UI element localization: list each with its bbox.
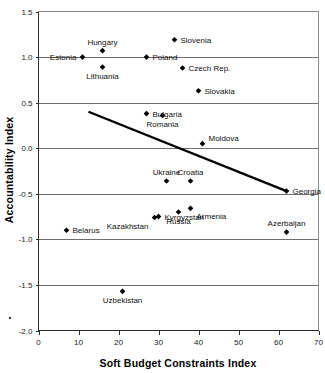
data-marker	[100, 64, 106, 70]
data-marker	[284, 229, 290, 235]
data-marker	[188, 206, 194, 212]
data-marker	[196, 88, 202, 94]
point-label-czech-rep: Czech Rep.	[189, 64, 231, 73]
chart-canvas: -2.0-1.5-1.0-0.50.00.51.01.5 01020304050…	[0, 0, 325, 373]
point-label-belarus: Belarus	[73, 226, 100, 235]
data-marker	[120, 288, 126, 294]
data-marker	[180, 65, 186, 71]
data-marker	[188, 178, 194, 184]
trend-line	[89, 112, 287, 191]
x-tick-label: 60	[274, 338, 283, 347]
y-axis-title: Accountability Index	[3, 117, 15, 224]
point-label-hungary: Hungary	[87, 38, 117, 47]
x-tick-label: 50	[234, 338, 243, 347]
x-tick-label: 30	[154, 338, 163, 347]
x-tick-label: 10	[74, 338, 83, 347]
y-tick-label: 1.5	[21, 8, 33, 17]
x-tick-label: 40	[194, 338, 203, 347]
data-marker	[152, 215, 158, 221]
data-marker	[144, 111, 150, 117]
point-label-uzbekistan: Uzbekistan	[103, 296, 143, 305]
point-label-georgia: Georgia	[293, 187, 322, 196]
data-marker	[80, 54, 86, 60]
y-tick-label: -2.0	[19, 327, 33, 336]
point-label-romania: Romania	[146, 120, 179, 129]
data-marker	[156, 214, 162, 220]
point-label-moldova: Moldova	[209, 134, 240, 143]
regression-line	[89, 112, 287, 191]
y-tick-labels: -2.0-1.5-1.0-0.50.00.51.01.5	[19, 8, 33, 336]
scatter-chart: -2.0-1.5-1.0-0.50.00.51.01.5 01020304050…	[0, 0, 325, 373]
x-tick-labels: 010203040506070	[36, 338, 323, 347]
data-marker	[172, 37, 178, 43]
point-label-kazakhstan: Kazakhstan	[107, 222, 149, 231]
point-label-estonia: Estonia	[50, 53, 77, 62]
data-marker	[200, 141, 206, 147]
data-marker	[144, 54, 150, 60]
data-marker	[64, 227, 70, 233]
point-label-poland: Poland	[153, 53, 178, 62]
point-label-slovenia: Slovenia	[181, 36, 212, 45]
x-tick-label: 0	[36, 338, 41, 347]
y-tick-label: -0.5	[19, 190, 33, 199]
stray-dot-artifact	[9, 317, 11, 319]
x-tick-label: 20	[114, 338, 123, 347]
x-tick-label: 70	[314, 338, 323, 347]
y-tick-label: 1.0	[21, 53, 33, 62]
point-label-kyrgyzstan: Kyrgyzstan	[165, 213, 205, 222]
data-marker	[100, 48, 106, 54]
data-point-labels: EstoniaHungaryPolandLithuaniaSloveniaCze…	[50, 36, 322, 306]
y-tick-label: -1.0	[19, 235, 33, 244]
point-label-azerbaijan: Azerbaijan	[268, 219, 306, 228]
point-label-slovakia: Slovakia	[205, 87, 236, 96]
y-tick-label: 0.5	[21, 99, 33, 108]
point-label-bulgaria: Bulgaria	[153, 110, 183, 119]
y-tick-label: -1.5	[19, 281, 33, 290]
point-label-croatia: Croatia	[178, 168, 204, 177]
data-marker	[164, 178, 170, 184]
y-tick-label: 0.0	[21, 144, 33, 153]
x-axis-title: Soft Budget Constraints Index	[100, 357, 257, 369]
point-label-lithuania: Lithuania	[86, 72, 119, 81]
